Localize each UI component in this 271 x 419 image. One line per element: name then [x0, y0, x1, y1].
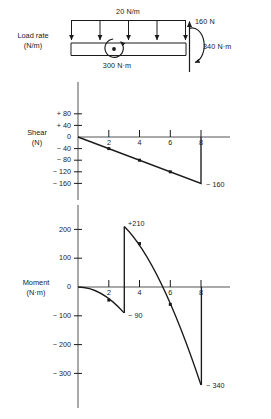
moment-x-ticks [109, 280, 201, 287]
shear-ytick-m80: − 80 [40, 156, 71, 164]
shear-xtick-2: 2 [101, 139, 117, 147]
moment-ytick-200: 200 [42, 226, 71, 234]
moment-ytick-m100: − 100 [38, 312, 71, 320]
shear-xtick-4: 4 [132, 139, 148, 147]
load-rate-axis-label: Load rate(N/m) [2, 31, 64, 50]
reaction-moment-label: 340 N·m [203, 42, 231, 51]
moment-xtick-2: 2 [101, 289, 117, 297]
moment-diagram-group [74, 205, 230, 408]
shear-ytick-p40: + 40 [40, 122, 71, 130]
shear-ytick-m120: − 120 [38, 168, 71, 176]
distributed-load-arrows [72, 21, 186, 41]
moment-xtick-4: 4 [132, 289, 148, 297]
distributed-load-label: 20 N/m [99, 7, 157, 16]
moment-xtick-8: 8 [193, 289, 209, 297]
reaction-moment-340 [189, 28, 204, 63]
figure-canvas: Load rate(N/m) 20 N/m 300 N·m 160 N 340 … [0, 0, 271, 419]
moment-ytick-m200: − 200 [38, 341, 71, 349]
applied-couple-300 [105, 39, 123, 57]
shear-ytick-p80: + 80 [40, 110, 71, 118]
shear-xtick-8: 8 [193, 139, 209, 147]
reaction-force-label: 160 N [195, 17, 215, 26]
moment-ytick-100: 100 [42, 254, 71, 262]
moment-ytick-m300: − 300 [38, 370, 71, 378]
shear-x-ticks [109, 130, 201, 137]
shear-xtick-6: 6 [162, 139, 178, 147]
moment-end-value-label: − 340 [206, 381, 225, 390]
moment-ytick-0: 0 [42, 283, 71, 291]
shear-end-value-label: − 160 [206, 180, 225, 189]
shear-ytick-0: 0 [40, 133, 71, 141]
moment-curve-segment-2 [124, 227, 201, 386]
shear-ytick-m160: − 160 [38, 180, 71, 188]
moment-drop-label: − 90 [128, 311, 143, 320]
applied-couple-label: 300 N·m [87, 61, 147, 70]
moment-xtick-6: 6 [162, 289, 178, 297]
shear-ytick-m40: − 40 [40, 145, 71, 153]
moment-peak-label: +210 [128, 219, 145, 228]
